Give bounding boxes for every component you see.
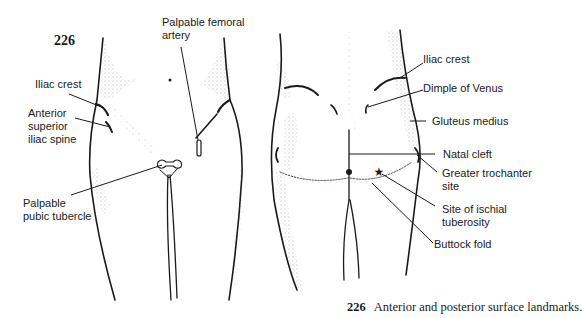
caption-text: Anterior and posterior surface landmarks… bbox=[374, 300, 582, 314]
label-palpable-femoral-artery: Palpable femoral artery bbox=[162, 16, 245, 42]
ischial-tuberosity-star-icon: ★ bbox=[374, 165, 385, 179]
figure-caption: 226Anterior and posterior surface landma… bbox=[347, 300, 582, 315]
posterior-view-drawing: ★ bbox=[271, 30, 420, 290]
label-greater-trochanter-site: Greater trochanter site bbox=[442, 167, 532, 193]
greater-trochanter-mark-left bbox=[276, 148, 278, 162]
caption-number: 226 bbox=[347, 300, 366, 314]
figure-number: 226 bbox=[54, 33, 75, 49]
posterior-inner-thigh-left bbox=[344, 200, 349, 280]
leader-palpable-femoral-artery bbox=[181, 47, 198, 140]
posterior-spine-shading bbox=[345, 30, 356, 130]
label-gluteus-medius: Gluteus medius bbox=[432, 115, 508, 128]
label-iliac-crest-posterior: Iliac crest bbox=[423, 53, 469, 66]
leader-pubic-tubercle bbox=[71, 165, 162, 195]
anterior-inguinal-shading bbox=[108, 104, 156, 155]
leader-buttock-fold bbox=[372, 183, 433, 243]
label-dimple-of-venus: Dimple of Venus bbox=[423, 82, 503, 95]
anterior-pubic-v bbox=[160, 168, 178, 178]
label-palpable-pubic-tubercle: Palpable pubic tubercle bbox=[23, 197, 92, 223]
anterior-leader-lines bbox=[69, 47, 198, 195]
femoral-artery-mark bbox=[197, 140, 201, 156]
natal-cleft-point bbox=[346, 169, 352, 175]
anterior-iliac-crest-mark-right bbox=[218, 100, 230, 112]
anterior-inguinal-line-right bbox=[196, 114, 217, 138]
dimple-of-venus-left bbox=[331, 105, 337, 114]
label-anterior-superior-iliac-spine: Anterior superior iliac spine bbox=[28, 107, 76, 146]
posterior-inner-thigh-right bbox=[350, 200, 359, 278]
label-natal-cleft: Natal cleft bbox=[443, 148, 492, 161]
leader-iliac-crest-anterior bbox=[69, 94, 104, 108]
dimple-of-venus-right bbox=[366, 105, 368, 113]
anterior-view-drawing bbox=[90, 38, 244, 300]
label-buttock-fold: Buttock fold bbox=[434, 238, 491, 251]
anterior-left-flank-shading bbox=[100, 40, 140, 100]
label-site-of-ischial-tuberosity: Site of ischial tuberosity bbox=[442, 203, 507, 229]
anterior-inner-thigh-left bbox=[167, 175, 171, 300]
umbilicus bbox=[169, 79, 172, 82]
leader-dimple-of-venus bbox=[368, 90, 423, 107]
pubic-tubercle-mark bbox=[158, 160, 182, 168]
label-iliac-crest-anterior: Iliac crest bbox=[35, 78, 81, 91]
anterior-inner-thigh-right bbox=[170, 175, 177, 298]
posterior-left-gluteus-shading bbox=[282, 112, 297, 170]
